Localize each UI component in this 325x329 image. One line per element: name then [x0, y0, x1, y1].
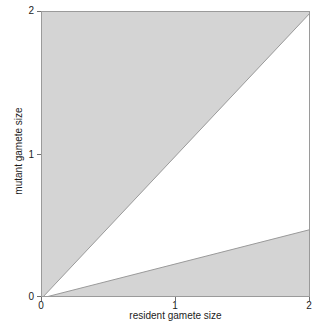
x-axis-label: resident gamete size: [41, 310, 310, 321]
y-axis-label: mutant gamete size: [12, 71, 26, 231]
y-tick-mark-2: [37, 11, 41, 12]
y-axis-label-container: mutant gamete size: [12, 71, 26, 231]
plot-canvas: [42, 12, 310, 297]
y-tick-label-2: 2: [20, 5, 34, 16]
y-tick-mark-1: [37, 154, 41, 155]
plot-area: [41, 11, 310, 297]
y-tick-mark-0: [37, 296, 41, 297]
pairwise-invasibility-plot: 0 1 2 0 1 2 resident gamete size mutant …: [0, 0, 325, 329]
y-tick-label-0: 0: [20, 291, 34, 302]
